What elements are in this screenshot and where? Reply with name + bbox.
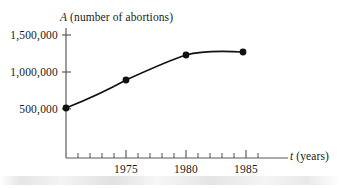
x-axis-minor-ticks xyxy=(78,153,258,158)
data-point-1975 xyxy=(123,77,130,84)
abortions-line-chart-figure: A (number of abortions) 1,500,000 1,000,… xyxy=(0,0,340,188)
data-point-markers xyxy=(63,49,247,112)
scan-artifact-band xyxy=(0,176,340,185)
chart-plot-area xyxy=(0,0,340,188)
data-point-1970 xyxy=(63,105,70,112)
data-curve xyxy=(66,51,243,108)
data-point-1980 xyxy=(183,52,190,59)
data-point-1984 xyxy=(240,49,247,56)
x-axis-major-ticks xyxy=(126,150,246,158)
